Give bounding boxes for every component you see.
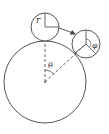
label-phi: φ [92,41,98,50]
rolling-arrow [59,28,75,34]
theta-arc [45,70,54,74]
rolling-circle-diagram: r θ φ [0,0,109,134]
label-r: r [36,15,41,25]
label-theta: θ [48,61,53,70]
